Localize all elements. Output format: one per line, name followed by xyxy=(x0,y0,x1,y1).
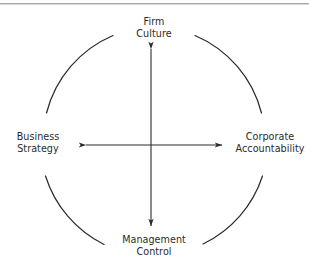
node-label-firm-culture: Firm Culture xyxy=(104,16,204,39)
node-label-line: Accountability xyxy=(231,143,309,155)
node-label-line: Strategy xyxy=(2,143,74,155)
node-label-line: Firm xyxy=(104,16,204,28)
node-label-business-strategy: Business Strategy xyxy=(2,131,74,154)
node-label-corporate-accountability: Corporate Accountability xyxy=(231,131,309,154)
node-label-line: Culture xyxy=(104,28,204,40)
node-label-management-control: Management Control xyxy=(97,234,211,257)
node-label-line: Corporate xyxy=(231,131,309,143)
arc-top-right xyxy=(195,36,262,114)
circle-arc-group xyxy=(46,36,263,245)
figure-container: Firm Culture Corporate Accountability Ma… xyxy=(0,0,309,274)
node-label-line: Control xyxy=(97,246,211,258)
node-label-line: Business xyxy=(2,131,74,143)
arc-bottom-left xyxy=(46,176,105,245)
arc-bottom-right xyxy=(203,176,263,244)
arc-top-left xyxy=(47,36,114,114)
node-label-line: Management xyxy=(97,234,211,246)
